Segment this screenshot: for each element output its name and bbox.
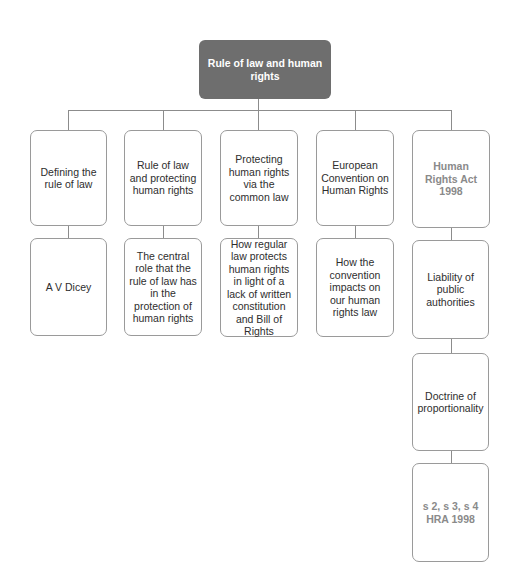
branch-label: Defining the rule of law bbox=[35, 166, 102, 191]
connector-bus bbox=[68, 110, 451, 111]
child-label: s 2, s 3, s 4 HRA 1998 bbox=[417, 500, 484, 525]
root-node: Rule of law and human rights bbox=[199, 40, 331, 99]
child-regular-law: How regular law protects human rights in… bbox=[220, 238, 298, 337]
child-label: How the convention impacts on our human … bbox=[321, 256, 389, 319]
connector-b3-c1 bbox=[258, 226, 259, 238]
child-convention-impacts: How the convention impacts on our human … bbox=[316, 238, 394, 337]
connector-b2 bbox=[163, 110, 164, 130]
connector-b5-c2 bbox=[451, 339, 452, 353]
branch-label: European Convention on Human Rights bbox=[321, 159, 389, 197]
child-label: A V Dicey bbox=[46, 281, 92, 294]
branch-rule-of-law-protecting-rights: Rule of law and protecting human rights bbox=[124, 130, 202, 226]
connector-b5-c1 bbox=[451, 228, 452, 240]
connector-root bbox=[258, 99, 259, 110]
child-label: How regular law protects human rights in… bbox=[225, 238, 293, 338]
child-liability-public-authorities: Liability of public authorities bbox=[412, 240, 489, 339]
child-doctrine-proportionality: Doctrine of proportionality bbox=[412, 353, 489, 451]
connector-b2-c1 bbox=[163, 226, 164, 238]
connector-b1 bbox=[68, 110, 69, 130]
root-label: Rule of law and human rights bbox=[203, 57, 327, 82]
branch-echr: European Convention on Human Rights bbox=[316, 130, 394, 226]
child-label: Liability of public authorities bbox=[417, 271, 484, 309]
branch-defining-rule-of-law: Defining the rule of law bbox=[30, 130, 107, 226]
branch-common-law: Protecting human rights via the common l… bbox=[220, 130, 298, 226]
connector-b3 bbox=[258, 110, 259, 130]
branch-label: Protecting human rights via the common l… bbox=[225, 153, 293, 203]
connector-b1-c1 bbox=[68, 226, 69, 238]
branch-label: Rule of law and protecting human rights bbox=[129, 159, 197, 197]
child-label: Doctrine of proportionality bbox=[417, 390, 484, 415]
child-central-role: The central role that the rule of law ha… bbox=[124, 238, 202, 336]
connector-b5 bbox=[451, 110, 452, 130]
child-label: The central role that the rule of law ha… bbox=[129, 250, 197, 325]
connector-b4-c1 bbox=[355, 226, 356, 238]
connector-b5-c3 bbox=[451, 451, 452, 463]
child-hra-sections: s 2, s 3, s 4 HRA 1998 bbox=[412, 463, 489, 562]
child-av-dicey: A V Dicey bbox=[30, 238, 107, 336]
branch-hra-1998: Human Rights Act 1998 bbox=[412, 130, 490, 228]
connector-b4 bbox=[355, 110, 356, 130]
branch-label: Human Rights Act 1998 bbox=[417, 160, 485, 198]
